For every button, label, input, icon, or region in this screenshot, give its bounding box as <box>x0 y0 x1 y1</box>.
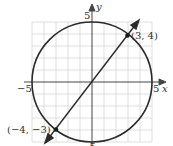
line-arrow-up-icon <box>131 20 139 29</box>
point-neg4-neg3 <box>54 127 59 132</box>
x-axis-label: x <box>162 83 168 94</box>
y-pos-tick-label: 5 <box>84 10 90 21</box>
point-3-4-label: (3, 4) <box>131 30 158 41</box>
x-pos-tick-label: 5 <box>153 83 159 94</box>
y-axis-label: y <box>95 1 102 12</box>
point-neg4-neg3-label: (−4, −3) <box>7 124 51 135</box>
circle-line-figure: 5 y −5 5 x −5 (3, 4) (−4, −3) <box>0 0 173 146</box>
point-3-4 <box>125 33 130 38</box>
x-neg-tick-label: −5 <box>17 83 32 94</box>
y-neg-tick-label: −5 <box>81 141 96 146</box>
